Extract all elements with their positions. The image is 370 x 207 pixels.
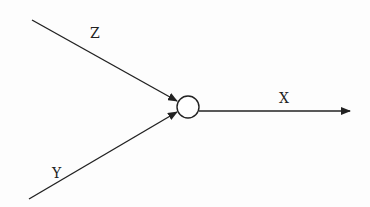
diagram-canvas: Z Y X (0, 0, 370, 207)
edge-x: X (199, 90, 350, 111)
edge-y: Y (29, 112, 177, 199)
edge-z: Z (32, 20, 177, 101)
diagram-svg: Z Y X (0, 0, 370, 207)
summing-node (177, 96, 199, 118)
label-y: Y (51, 165, 62, 181)
label-x: X (279, 90, 289, 106)
label-z: Z (90, 25, 100, 41)
